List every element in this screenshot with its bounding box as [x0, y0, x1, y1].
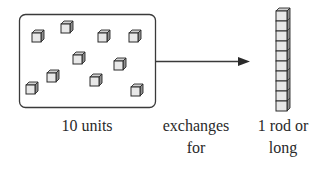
unit-cube-icon: [73, 52, 85, 64]
diagram-canvas: 10 units exchanges for 1 rod or long: [0, 0, 327, 172]
rod-segment: [276, 61, 287, 71]
units-label: 10 units: [52, 116, 122, 136]
rod-label-line1: 1 rod or: [246, 116, 320, 136]
unit-cube-icon: [114, 58, 126, 70]
unit-cubes: [26, 21, 143, 96]
unit-cube-icon: [98, 30, 110, 42]
rod-segment: [276, 41, 287, 51]
rod-segment: [276, 31, 287, 41]
unit-cube-icon: [47, 70, 59, 82]
rod-segment: [276, 21, 287, 31]
unit-cube-icon: [26, 82, 38, 94]
rod-segment: [276, 51, 287, 61]
rod-segment: [276, 91, 287, 101]
rod-segment: [276, 71, 287, 81]
unit-cube-icon: [32, 30, 44, 42]
rod-long-icon: [276, 8, 290, 111]
rod-segment: [276, 81, 287, 91]
exchanges-label-line1: exchanges: [151, 116, 241, 136]
exchanges-label-line2: for: [151, 138, 241, 158]
rod-segment: [276, 101, 287, 111]
rod-label-line2: long: [246, 138, 320, 158]
unit-cube-icon: [61, 21, 73, 33]
unit-cube-icon: [129, 30, 141, 42]
rod-segment: [276, 11, 287, 21]
exchange-arrow-icon: [156, 57, 250, 66]
unit-cube-icon: [90, 74, 102, 86]
unit-cube-icon: [131, 84, 143, 96]
